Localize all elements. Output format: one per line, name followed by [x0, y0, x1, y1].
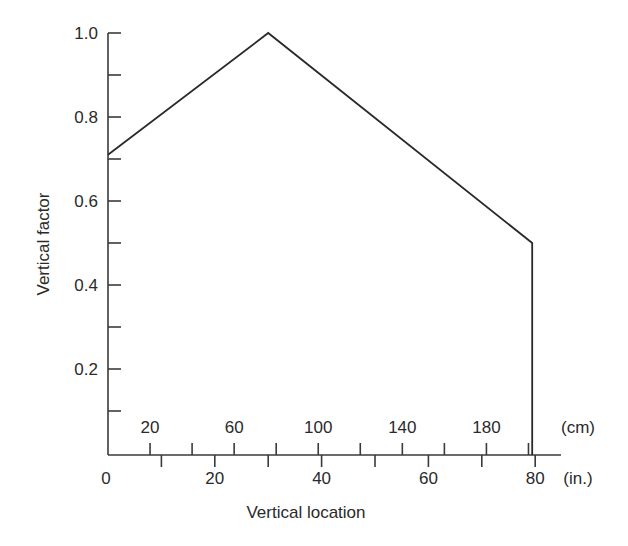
x-tick-label-in: 80 — [526, 469, 545, 488]
plot-series — [108, 33, 532, 455]
x-tick-label-in: 60 — [419, 469, 438, 488]
x-unit-cm-label: (cm) — [561, 418, 595, 437]
x-tick-label-cm: 100 — [304, 418, 332, 437]
x-tick-label-cm: 60 — [225, 418, 244, 437]
x-tick-label-cm: 20 — [141, 418, 160, 437]
x-tick-label-in: 20 — [205, 469, 224, 488]
y-axis-title: Vertical factor — [34, 192, 53, 295]
x-axis-title: Vertical location — [246, 503, 365, 522]
x-tick-label-in: 0 — [101, 469, 110, 488]
vertical-factor-chart: 0.20.40.60.81.00204060802060100140180 Ve… — [0, 0, 628, 546]
x-unit-in-label: (in.) — [563, 469, 592, 488]
axes: 0.20.40.60.81.00204060802060100140180 — [74, 24, 561, 488]
x-tick-label-in: 40 — [312, 469, 331, 488]
y-tick-label: 0.2 — [74, 360, 98, 379]
y-tick-label: 1.0 — [74, 24, 98, 43]
y-tick-label: 0.8 — [74, 108, 98, 127]
vertical-factor-line — [108, 33, 532, 455]
y-tick-label: 0.6 — [74, 192, 98, 211]
x-tick-label-cm: 140 — [388, 418, 416, 437]
y-tick-label: 0.4 — [74, 276, 98, 295]
x-tick-label-cm: 180 — [472, 418, 500, 437]
